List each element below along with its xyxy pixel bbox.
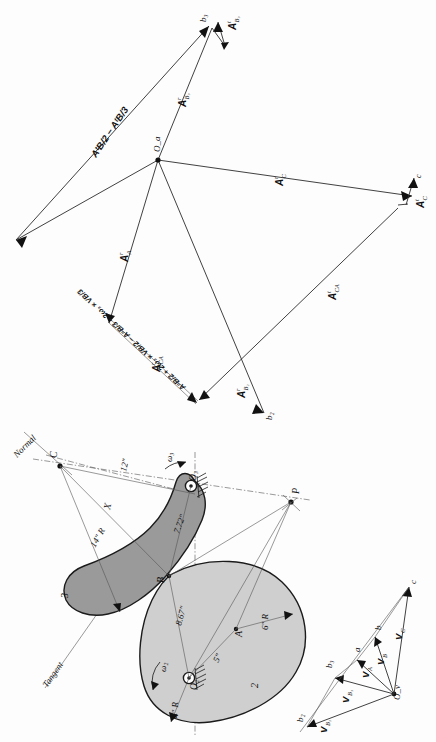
accel-label-At-C-sub: C bbox=[421, 196, 428, 201]
velocity-label-VB3-sub: B₃ bbox=[346, 690, 353, 696]
velocity-terminal-b-label: b bbox=[373, 625, 383, 630]
radius-6in-label: 6" R bbox=[260, 613, 270, 630]
arrow-head-Ar-CA bbox=[187, 392, 197, 403]
accel-edge-oa-left bbox=[16, 160, 158, 240]
accel-annotation-coriolis-text: AⁿB/2 + 2ω₃ × VB/2 − AⁿB/3 − 2ω₃ × VB/3 bbox=[75, 287, 188, 393]
velocity-label-VB: V B bbox=[375, 654, 388, 665]
velocity-label-VC-sub: C bbox=[399, 628, 406, 633]
link-3-label: 3 bbox=[59, 593, 70, 599]
omega3-label: ω₃ bbox=[164, 453, 174, 462]
velocity-label-VB2: V B₂ bbox=[318, 719, 331, 733]
link-2-label: 2 bbox=[249, 683, 260, 688]
accel-vector-Ar-A bbox=[109, 160, 158, 323]
accel-label-Ar-A-main: A bbox=[119, 255, 130, 263]
velocity-label-VB-main: V bbox=[375, 658, 386, 665]
point-P-label: P bbox=[290, 488, 301, 495]
accel-label-Ar-B3-sub: B₃ bbox=[183, 93, 190, 99]
tangent-line-label: Tangent bbox=[40, 660, 65, 690]
accel-label-Ar-B3-sup: r bbox=[176, 97, 182, 100]
accel-label-At-B3-sup: t bbox=[226, 21, 232, 23]
arrow-head-VA bbox=[357, 660, 366, 669]
velocity-label-VC-main: V bbox=[393, 633, 404, 640]
velocity-label-VB2-main: V bbox=[318, 726, 329, 733]
accel-terminal-c-label: c bbox=[414, 174, 423, 178]
velocity-label-VB-sub: B bbox=[381, 654, 388, 658]
velocity-label-VB2-sub: B₂ bbox=[324, 719, 331, 726]
accel-pole-label: O_a bbox=[152, 136, 162, 152]
velocity-edge-c-b2 bbox=[300, 587, 409, 732]
accel-label-Ar-B2: A r B₂ bbox=[235, 384, 249, 399]
accel-label-At-B3-main: A bbox=[227, 23, 238, 31]
accel-annotation-tangential-difference: AᵗB/2 − AᵗB/3 bbox=[88, 104, 131, 160]
velocity-label-VA-sub: A bbox=[366, 667, 373, 672]
arrow-head-omega3 bbox=[177, 461, 186, 468]
accel-label-Ar-A-sub: A bbox=[125, 251, 132, 256]
accel-label-Ar-C: A r C bbox=[273, 174, 287, 188]
velocity-label-VC: V C bbox=[393, 628, 406, 640]
accel-label-Ar-B2-sup: r bbox=[235, 388, 241, 391]
arrow-head-b3 bbox=[199, 26, 209, 38]
omega2-label: ω₂ bbox=[158, 663, 168, 672]
accel-terminal-b3-label: b₃ bbox=[198, 14, 208, 22]
accel-label-Ar-A: A r A bbox=[118, 251, 132, 264]
accel-label-At-C-sup: t bbox=[414, 199, 420, 201]
figure-canvas: O_a b₃ b₂ c A r B₃ A t B₃ A r C bbox=[0, 0, 436, 742]
arrow-head-At-B3-foot bbox=[221, 42, 229, 50]
accel-label-At-B3: A t B₃ bbox=[226, 16, 240, 31]
velocity-label-VB3-main: V bbox=[340, 696, 351, 703]
accel-label-Ar-C-sub: C bbox=[280, 174, 287, 179]
point-O2-label: O₂ bbox=[189, 679, 199, 690]
point-O3-label: O₃ bbox=[188, 471, 198, 481]
accel-label-Ar-B2-main: A bbox=[236, 391, 247, 399]
velocity-polygon: O_v c b a b₃ b₂ V C V B V A V B bbox=[295, 580, 418, 733]
dim-X-label: X bbox=[101, 501, 113, 511]
accel-label-At-CA-main: A bbox=[327, 293, 338, 301]
accel-label-Ar-B3-main: A bbox=[177, 100, 188, 108]
velocity-edge-b3-b2 bbox=[307, 678, 335, 727]
accel-annotation-tangential-difference-text: AᵗB/2 − AᵗB/3 bbox=[88, 104, 131, 160]
mechanism-skeleton: Normal Tangent C P B A O₃ O₂ 3 2 ω₃ bbox=[11, 432, 310, 735]
p-cross-mark-2 bbox=[283, 495, 300, 511]
velocity-label-VA-main: V bbox=[360, 671, 371, 678]
arrow-head-At-C bbox=[408, 178, 418, 188]
accel-label-At-C: A t C bbox=[414, 196, 428, 210]
normal-line-label: Normal bbox=[11, 433, 39, 461]
p-cross-mark bbox=[282, 498, 297, 510]
acceleration-polygon: O_a b₃ b₂ c A r B₃ A t B₃ A r C bbox=[16, 14, 428, 420]
accel-terminal-b2-label: b₂ bbox=[264, 412, 274, 420]
accel-label-At-CA: A t CA bbox=[326, 284, 340, 301]
accel-label-At-C-main: A bbox=[415, 201, 426, 209]
arrow-head-Ar-C bbox=[401, 191, 412, 201]
accel-pole-dot bbox=[155, 157, 160, 162]
cam-link-2-body bbox=[140, 561, 306, 722]
point-C-label: C bbox=[48, 451, 59, 458]
point-B-label: B bbox=[155, 577, 166, 583]
velocity-terminal-c-label: c bbox=[408, 580, 418, 584]
velocity-label-VB3: V B₃ bbox=[340, 690, 353, 703]
arrow-head-At-B3 bbox=[213, 22, 223, 32]
velocity-pole-label: O_v bbox=[392, 685, 402, 700]
accel-label-Ar-A-sup: r bbox=[118, 252, 124, 255]
accel-label-Ar-B3: A r B₃ bbox=[176, 93, 190, 108]
point-A-label: A bbox=[233, 630, 244, 638]
accel-label-Ar-C-main: A bbox=[274, 179, 285, 187]
velocity-terminal-b2-label: b₂ bbox=[295, 714, 305, 722]
radius-14in-label: 14" R bbox=[88, 526, 107, 549]
accel-annotation-coriolis: AⁿB/2 + 2ω₃ × VB/2 − AⁿB/3 − 2ω₃ × VB/3 bbox=[75, 287, 188, 393]
accel-label-Ar-B2-sub: B₂ bbox=[242, 384, 249, 391]
dim-12in-label: 12" bbox=[118, 458, 130, 473]
radius-4in-label: 4" R bbox=[170, 701, 180, 718]
velocity-edge-a-b3 bbox=[335, 660, 357, 678]
accel-label-At-B3-sub: B₃ bbox=[233, 16, 240, 22]
accel-vector-At-CA bbox=[199, 208, 398, 400]
accel-label-At-CA-sup: t bbox=[326, 291, 332, 293]
velocity-terminal-a-label: a bbox=[352, 647, 362, 652]
kinematics-figure: O_a b₃ b₂ c A r B₃ A t B₃ A r C bbox=[0, 0, 436, 742]
velocity-terminal-b3-label: b₃ bbox=[324, 660, 334, 668]
accel-label-At-CA-sub: CA bbox=[333, 284, 340, 292]
